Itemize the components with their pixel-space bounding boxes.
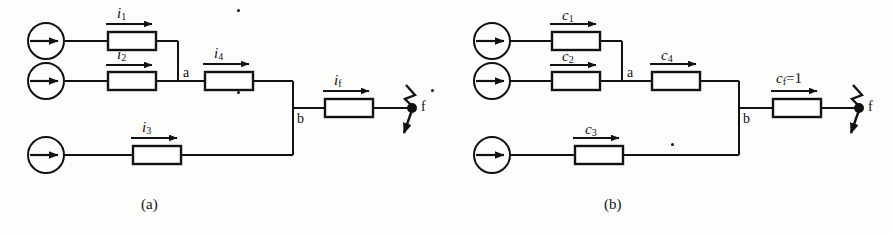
panel-b-label-cf-base: c	[776, 70, 783, 86]
panel-b-label-c2: c2	[562, 49, 574, 65]
circuit-figure: i1 i2 i3 i4 if a b f (a) c1 c2 c3 c4 cf=…	[0, 0, 892, 235]
panel-a-label-i1: i1	[117, 6, 126, 22]
panel-b-label-c2-base: c	[562, 48, 569, 64]
panel-a-impedance-2	[108, 72, 156, 90]
phasor-dot-icon	[431, 89, 434, 92]
panel-b-label-c1-base: c	[562, 7, 569, 23]
panel-b-label-c4: c4	[661, 48, 673, 64]
panel-b-fault-label-f: f	[868, 100, 873, 114]
panel-a-label-i3-sub: 3	[146, 125, 151, 136]
panel-a-node-label-b: b	[297, 112, 304, 126]
panel-a-label-i2-sub: 2	[121, 52, 126, 63]
panel-a-label-if: if	[334, 73, 342, 89]
panel-b-label-cf: cf=1	[776, 71, 802, 87]
panel-b-label-c3: c3	[585, 122, 597, 138]
panel-b-schematic	[474, 23, 864, 173]
panel-b-impedance-4	[652, 72, 700, 90]
panel-a-impedance-4	[205, 72, 253, 90]
panel-a-impedance-3	[133, 146, 181, 164]
panel-b-current-source-3	[474, 137, 510, 173]
panel-b-caption: (b)	[604, 197, 622, 212]
panel-a-node-label-a: a	[183, 66, 189, 80]
phasor-dot-icon	[671, 143, 674, 146]
panel-b-label-c3-sub: 3	[592, 127, 597, 138]
panel-b-node-label-b: b	[743, 112, 750, 126]
panel-a-current-source-2	[28, 63, 64, 99]
panel-a-fault-label-f: f	[421, 100, 426, 114]
panel-b-impedance-1	[552, 32, 600, 50]
panel-a-current-source-1	[28, 23, 64, 59]
panel-a-impedance-1	[108, 32, 156, 50]
panel-a-label-i2: i2	[117, 47, 126, 63]
panel-a-label-i3: i3	[142, 120, 151, 136]
phasor-dot-icon	[237, 91, 240, 94]
panel-b-current-source-1	[474, 23, 510, 59]
panel-a-label-i1-sub: 1	[121, 11, 126, 22]
panel-b-label-c1-sub: 1	[569, 13, 574, 24]
panel-b-impedance-fault	[773, 99, 821, 117]
panel-a-caption: (a)	[141, 197, 158, 212]
panel-b-impedance-3	[575, 146, 623, 164]
panel-a-label-if-sub: f	[338, 78, 341, 89]
panel-b-label-c4-sub: 4	[668, 53, 673, 64]
panel-a-label-i4-sub: 4	[218, 51, 223, 62]
phasor-dot-icon	[237, 9, 240, 12]
panel-b-label-c1: c1	[562, 8, 574, 24]
panel-b-label-cf-suffix: =1	[786, 70, 802, 86]
panel-b-node-label-a: a	[627, 66, 633, 80]
panel-a-current-source-3	[28, 137, 64, 173]
panel-b-label-c2-sub: 2	[569, 54, 574, 65]
panel-b-current-source-2	[474, 63, 510, 99]
panel-b-impedance-2	[552, 72, 600, 90]
panel-b-label-c4-base: c	[661, 47, 668, 63]
panel-a-label-i4: i4	[214, 46, 223, 62]
panel-a-impedance-fault	[325, 99, 373, 117]
panel-b-label-c3-base: c	[585, 121, 592, 137]
circuit-schematic-svg	[0, 0, 892, 235]
